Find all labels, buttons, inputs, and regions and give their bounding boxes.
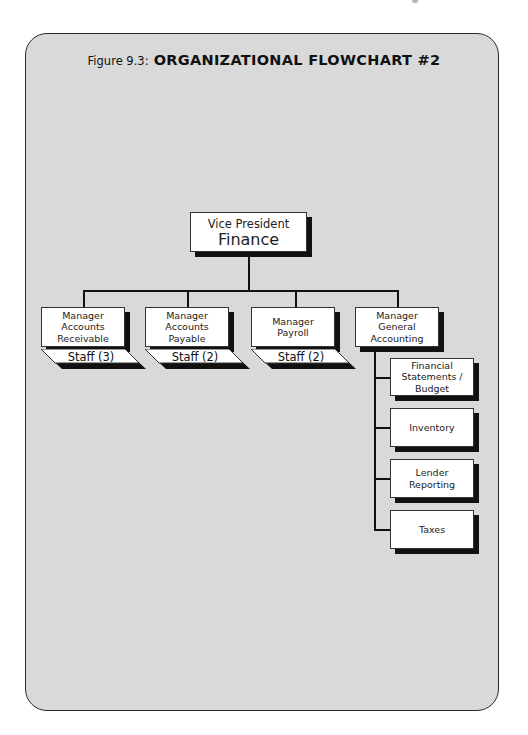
box-line: Reporting xyxy=(409,479,455,491)
manager-ga-box: Manager General Accounting xyxy=(355,307,439,347)
box-line: Taxes xyxy=(419,524,445,536)
connector-inv xyxy=(374,427,390,429)
manager-ar-box: Manager Accounts Receivable xyxy=(41,307,125,347)
staff-ar: Staff (3) xyxy=(41,349,141,365)
vp-finance-box: Vice President Finance xyxy=(190,212,307,252)
box-line: Accounting xyxy=(370,333,423,345)
connector-ar xyxy=(83,290,85,307)
box-line: Payroll xyxy=(277,327,309,339)
box-line: Inventory xyxy=(409,422,454,434)
box-line: Payable xyxy=(168,333,205,345)
staff-label: Staff (3) xyxy=(41,350,141,364)
connector-ga-vertical xyxy=(374,346,376,530)
connector-horizontal xyxy=(83,290,398,292)
box-line: Receivable xyxy=(57,333,109,345)
function-lender-reporting-box: Lender Reporting xyxy=(390,459,474,498)
function-inventory-box: Inventory xyxy=(390,408,474,447)
box-line: Manager xyxy=(272,316,314,328)
connector-taxes xyxy=(374,529,390,531)
figure-label: Figure 9.3: xyxy=(88,54,149,68)
vp-department: Finance xyxy=(218,231,279,248)
box-line: Accounts xyxy=(61,321,104,333)
staff-payroll: Staff (2) xyxy=(251,349,351,365)
box-line: Statements / xyxy=(401,371,462,383)
figure-heading: ORGANIZATIONAL FLOWCHART #2 xyxy=(154,52,441,68)
connector-lender xyxy=(374,478,390,480)
box-line: Manager xyxy=(376,310,418,322)
box-line: Lender xyxy=(416,467,449,479)
box-line: Accounts xyxy=(165,321,208,333)
staff-label: Staff (2) xyxy=(145,350,245,364)
manager-payroll-box: Manager Payroll xyxy=(251,307,335,347)
cropped-glyph-fragment xyxy=(412,0,418,3)
connector-vp-down xyxy=(248,251,250,291)
staff-label: Staff (2) xyxy=(251,350,351,364)
box-line: Manager xyxy=(166,310,208,322)
manager-ap-box: Manager Accounts Payable xyxy=(145,307,229,347)
connector-payroll xyxy=(295,290,297,307)
connector-ga xyxy=(397,290,399,307)
figure-title: Figure 9.3: ORGANIZATIONAL FLOWCHART #2 xyxy=(0,50,528,69)
box-line: General xyxy=(378,321,415,333)
function-taxes-box: Taxes xyxy=(390,510,474,549)
connector-ap xyxy=(187,290,189,307)
function-financial-statements-box: Financial Statements / Budget xyxy=(390,358,474,396)
connector-fs xyxy=(374,377,390,379)
box-line: Manager xyxy=(62,310,104,322)
box-line: Budget xyxy=(415,383,449,395)
box-line: Financial xyxy=(411,360,453,372)
vp-title: Vice President xyxy=(208,217,290,231)
staff-ap: Staff (2) xyxy=(145,349,245,365)
